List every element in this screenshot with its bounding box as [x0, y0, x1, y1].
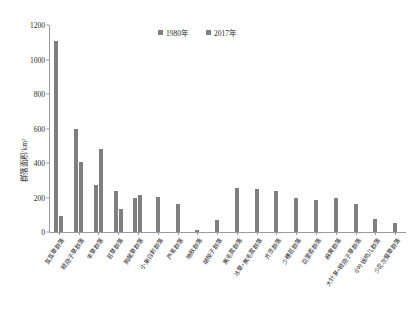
x-tick-mark — [296, 232, 297, 235]
bar-1980 — [133, 198, 137, 233]
bar-group — [227, 25, 247, 232]
bar-2017 — [156, 197, 160, 232]
bar-2017 — [255, 189, 259, 232]
plot-area: 020040060080010001200 — [49, 25, 405, 232]
bar-1980 — [94, 185, 98, 232]
bar-series-layer — [49, 25, 405, 232]
bar-group — [306, 25, 326, 232]
bar-2017 — [176, 204, 180, 232]
x-tick-mark — [316, 232, 317, 235]
x-tick-mark — [118, 232, 119, 235]
bar-group — [69, 25, 89, 232]
x-tick-mark — [336, 232, 337, 235]
bar-group — [49, 25, 69, 232]
bar-group — [89, 25, 109, 232]
bar-chart: 群落面积/km² 1980年2017年 02004006008001000120… — [0, 0, 417, 319]
bar-2017 — [373, 219, 377, 232]
bar-1980 — [74, 129, 78, 233]
x-tick-mark — [257, 232, 258, 235]
x-tick-mark — [158, 232, 159, 235]
bar-2017 — [274, 191, 278, 232]
bar-group — [187, 25, 207, 232]
x-tick-mark — [217, 232, 218, 235]
x-tick-mark — [178, 232, 179, 235]
bar-2017 — [119, 209, 123, 232]
bar-group — [365, 25, 385, 232]
x-tick-mark — [79, 232, 80, 235]
bar-group — [385, 25, 405, 232]
x-tick-mark — [197, 232, 198, 235]
bar-group — [168, 25, 188, 232]
x-tick-mark — [98, 232, 99, 235]
x-tick-mark — [138, 232, 139, 235]
x-tick-label: 芦苇群落 — [164, 236, 185, 261]
y-axis-title: 群落面积/km² — [18, 138, 29, 182]
bar-1980 — [114, 191, 118, 232]
bar-group — [326, 25, 346, 232]
bar-group — [207, 25, 227, 232]
x-tick-label: 羊草群落 — [85, 236, 106, 261]
bar-2017 — [354, 204, 358, 232]
bar-group — [148, 25, 168, 232]
x-tick-mark — [395, 232, 396, 235]
bar-group — [267, 25, 287, 232]
bar-2017 — [334, 198, 338, 233]
bar-2017 — [393, 223, 397, 232]
x-tick-mark — [375, 232, 376, 235]
bar-group — [346, 25, 366, 232]
bar-2017 — [59, 216, 63, 232]
bar-2017 — [314, 200, 318, 232]
bar-2017 — [99, 149, 103, 232]
x-tick-mark — [356, 232, 357, 235]
x-tick-mark — [59, 232, 60, 235]
bar-group — [108, 25, 128, 232]
bar-2017 — [215, 220, 219, 232]
x-tick-mark — [276, 232, 277, 235]
x-tick-mark — [237, 232, 238, 235]
bar-2017 — [138, 195, 142, 232]
x-axis-line — [49, 232, 406, 233]
bar-2017 — [235, 188, 239, 232]
bar-2017 — [294, 198, 298, 232]
bar-2017 — [79, 162, 83, 232]
bar-group — [247, 25, 267, 232]
bar-group — [286, 25, 306, 232]
bar-1980 — [54, 41, 58, 232]
bar-group — [128, 25, 148, 232]
